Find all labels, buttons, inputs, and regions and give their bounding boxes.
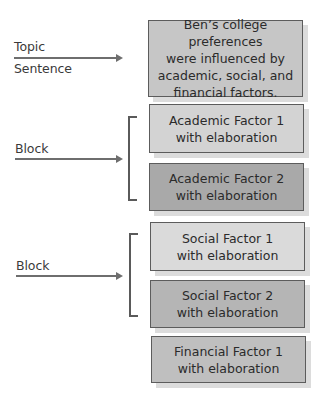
academic-factor-1-box: Academic Factor 1 with elaboration xyxy=(149,104,304,153)
academic-factor-1-text: Academic Factor 1 with elaboration xyxy=(169,112,284,146)
academic-block-bracket xyxy=(128,116,137,201)
block-arrow-icon-2 xyxy=(16,275,117,277)
block-arrow-icon-1 xyxy=(15,158,117,160)
topic-sentence-label: Topic xyxy=(14,38,45,56)
academic-factor-2-box: Academic Factor 2 with elaboration xyxy=(149,163,304,211)
topic-sentence-label-line2: Sentence xyxy=(14,60,72,78)
social-block-bracket xyxy=(129,233,138,317)
social-factor-2-text: Social Factor 2 with elaboration xyxy=(177,287,279,321)
social-factor-1-box: Social Factor 1 with elaboration xyxy=(150,222,305,271)
topic-sentence-text: Ben’s college preferences were influence… xyxy=(155,16,296,101)
block-label-2: Block xyxy=(16,257,49,275)
topic-label-line2: Sentence xyxy=(14,61,72,76)
topic-sentence-box: Ben’s college preferences were influence… xyxy=(148,20,303,97)
social-factor-1-text: Social Factor 1 with elaboration xyxy=(177,230,279,264)
financial-factor-1-text: Financial Factor 1 with elaboration xyxy=(174,343,283,377)
social-factor-2-box: Social Factor 2 with elaboration xyxy=(150,280,305,328)
academic-factor-2-text: Academic Factor 2 with elaboration xyxy=(169,170,284,204)
topic-label-line1: Topic xyxy=(14,39,45,54)
topic-arrow-icon xyxy=(14,57,117,59)
financial-factor-1-box: Financial Factor 1 with elaboration xyxy=(151,336,306,383)
block-label-1: Block xyxy=(15,140,48,158)
